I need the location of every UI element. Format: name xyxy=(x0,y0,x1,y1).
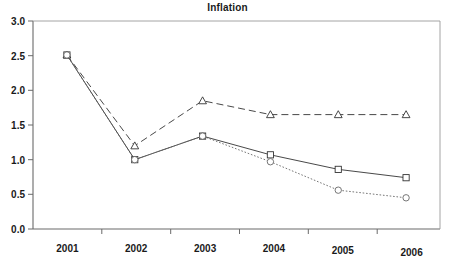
series-line-dashed-triangle-series xyxy=(67,55,406,146)
data-point-circle-2001 xyxy=(64,52,70,58)
x-tick-label-2001: 2001 xyxy=(56,243,79,254)
data-point-triangle-2002 xyxy=(131,142,139,149)
x-axis-ticks xyxy=(102,229,377,234)
x-tick-label-2002: 2002 xyxy=(125,243,148,254)
series-dashed-triangle-series xyxy=(63,51,410,149)
x-tick-label-2004: 2004 xyxy=(263,243,286,254)
series-line-solid-square-series xyxy=(67,55,406,178)
plot-frame xyxy=(33,21,440,229)
x-tick-label-2006: 2006 xyxy=(400,247,423,258)
y-axis-tick-labels: 3.0 2.5 2.0 1.5 1.0 0.5 0.0 xyxy=(11,16,25,235)
y-tick-label-0-5: 0.5 xyxy=(11,189,25,200)
series-solid-square-series xyxy=(64,52,409,181)
series-dotted-circle-series xyxy=(64,52,410,201)
y-axis-ticks xyxy=(28,21,33,229)
x-tick-label-2005: 2005 xyxy=(332,245,355,256)
data-point-triangle-2003 xyxy=(199,97,207,104)
data-point-circle-2002 xyxy=(132,156,138,162)
x-axis-tick-labels: 2001 2002 2003 2004 2005 2006 xyxy=(56,243,423,258)
y-tick-label-0-0: 0.0 xyxy=(11,224,25,235)
data-point-circle-2006 xyxy=(403,195,409,201)
x-tick-label-2003: 2003 xyxy=(194,243,217,254)
inflation-chart-figure: Inflation 3.0 2.5 2.0 1.5 1.0 0.5 xyxy=(0,0,455,264)
data-point-square-2006 xyxy=(403,175,409,181)
data-point-square-2005 xyxy=(335,166,341,172)
data-point-circle-2005 xyxy=(335,187,341,193)
series-line-dotted-circle-series xyxy=(67,55,406,198)
chart-plot-area: 3.0 2.5 2.0 1.5 1.0 0.5 0.0 2001 2002 20… xyxy=(0,0,455,264)
y-tick-label-1-0: 1.0 xyxy=(11,155,25,166)
y-tick-label-1-5: 1.5 xyxy=(11,120,25,131)
y-tick-label-2-5: 2.5 xyxy=(11,51,25,62)
data-point-circle-2003 xyxy=(199,133,205,139)
data-point-circle-2004 xyxy=(267,159,273,165)
data-series-layer xyxy=(63,51,410,201)
y-tick-label-3-0: 3.0 xyxy=(11,16,25,27)
data-point-square-2004 xyxy=(267,152,273,158)
y-tick-label-2-0: 2.0 xyxy=(11,85,25,96)
